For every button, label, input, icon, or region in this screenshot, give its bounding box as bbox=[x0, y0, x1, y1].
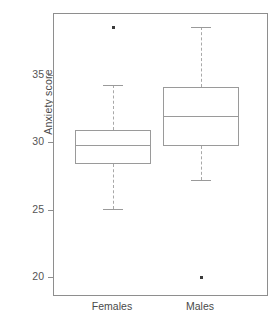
boxplot-series-layer bbox=[54, 14, 267, 295]
y-tick-label: 20 bbox=[32, 270, 44, 282]
whisker-cap-lower bbox=[191, 180, 211, 181]
whisker-cap-upper bbox=[191, 27, 211, 28]
x-tick-label-males: Males bbox=[186, 300, 214, 312]
boxplot-males bbox=[54, 14, 267, 295]
y-tick-label: 30 bbox=[32, 135, 44, 147]
x-tick-label-females: Females bbox=[92, 300, 132, 312]
median-line bbox=[163, 116, 239, 117]
whisker-lower bbox=[201, 146, 202, 180]
whisker-upper bbox=[201, 27, 202, 86]
outlier-point bbox=[200, 276, 203, 279]
boxplot-figure: Anxiety score 35302520 FemalesMales bbox=[0, 0, 280, 324]
y-tick-label: 25 bbox=[32, 203, 44, 215]
plot-area bbox=[53, 13, 268, 296]
y-tick-label: 35 bbox=[32, 68, 44, 80]
